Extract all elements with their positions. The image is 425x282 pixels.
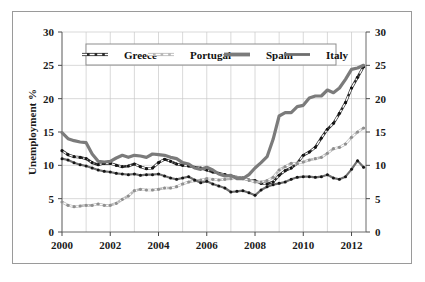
- data-point: [139, 188, 142, 191]
- data-point: [223, 187, 226, 190]
- data-point: [326, 152, 329, 155]
- y-tick-label-left: 15: [43, 126, 55, 138]
- data-point: [217, 178, 220, 181]
- data-point: [278, 168, 281, 171]
- data-point: [362, 126, 365, 129]
- data-point: [151, 188, 154, 191]
- data-point: [265, 182, 268, 185]
- data-point: [60, 200, 63, 203]
- data-point: [103, 204, 106, 207]
- data-point: [356, 159, 359, 162]
- y-tick-label-right: 20: [375, 93, 387, 105]
- data-point: [127, 194, 130, 197]
- data-point: [235, 190, 238, 193]
- x-tick-label: 2004: [148, 239, 171, 251]
- data-point: [181, 182, 184, 185]
- data-point: [79, 156, 82, 159]
- data-point: [157, 161, 160, 164]
- data-point: [308, 150, 311, 153]
- data-point: [133, 162, 136, 165]
- data-point: [79, 163, 82, 166]
- data-point: [127, 173, 130, 176]
- y-tick-label-left: 30: [43, 26, 55, 38]
- data-point: [344, 175, 347, 178]
- data-point: [266, 185, 269, 188]
- y-tick-label-left: 5: [49, 193, 55, 205]
- data-point: [320, 156, 323, 159]
- data-point: [338, 178, 341, 181]
- y-tick-label-right: 5: [375, 193, 381, 205]
- data-point: [284, 169, 287, 172]
- data-point: [61, 157, 64, 160]
- data-point: [302, 154, 305, 157]
- data-point: [181, 177, 184, 180]
- data-point: [211, 178, 214, 181]
- data-point: [91, 167, 94, 170]
- data-point: [332, 122, 335, 125]
- data-point: [229, 191, 232, 194]
- x-tick-label: 2010: [292, 239, 315, 251]
- data-point: [121, 198, 124, 201]
- data-point: [85, 165, 88, 168]
- data-point: [97, 163, 100, 166]
- data-point: [338, 112, 341, 115]
- data-point: [163, 186, 166, 189]
- data-point: [308, 158, 311, 161]
- data-point: [272, 176, 275, 179]
- data-point: [356, 76, 359, 79]
- data-point: [60, 149, 63, 152]
- data-point: [115, 172, 118, 175]
- data-point: [66, 153, 69, 156]
- data-point: [308, 175, 311, 178]
- data-point: [133, 189, 136, 192]
- data-point: [151, 166, 154, 169]
- x-tick-label: 2000: [51, 239, 74, 251]
- data-point: [296, 162, 299, 165]
- y-tick-label-right: 30: [375, 26, 387, 38]
- y-axis-title: Unemployment %: [26, 89, 38, 175]
- data-point: [290, 178, 293, 181]
- data-point: [193, 179, 196, 182]
- data-point: [332, 177, 335, 180]
- y-tick-label-left: 20: [43, 93, 55, 105]
- data-point: [127, 164, 130, 167]
- y-tick-label-right: 0: [375, 226, 381, 238]
- legend: GreecePortugalSpainItaly: [82, 44, 349, 65]
- data-point: [362, 166, 365, 169]
- data-point: [272, 183, 275, 186]
- data-point: [103, 170, 106, 173]
- data-point: [72, 155, 75, 158]
- data-point: [314, 157, 317, 160]
- x-tick-label: 2012: [341, 239, 364, 251]
- data-point: [139, 165, 142, 168]
- data-point: [247, 191, 250, 194]
- data-point: [72, 205, 75, 208]
- y-tick-label-left: 25: [43, 59, 55, 71]
- data-point: [259, 180, 262, 183]
- data-point: [247, 178, 250, 181]
- data-point: [326, 173, 329, 176]
- data-point: [356, 130, 359, 133]
- data-point: [139, 174, 142, 177]
- data-point: [314, 146, 317, 149]
- data-point: [73, 161, 76, 164]
- data-point: [350, 86, 353, 89]
- data-point: [284, 181, 287, 184]
- data-point: [109, 171, 112, 174]
- data-point: [199, 181, 202, 184]
- data-point: [344, 142, 347, 145]
- data-point: [278, 182, 281, 185]
- data-point: [211, 183, 214, 186]
- data-point: [115, 164, 118, 167]
- x-tick-label: 2008: [244, 239, 267, 251]
- data-point: [97, 169, 100, 172]
- data-point: [175, 185, 178, 188]
- data-point: [253, 180, 256, 183]
- data-point: [67, 159, 70, 162]
- data-point: [338, 146, 341, 149]
- data-point: [133, 173, 136, 176]
- data-point: [320, 175, 323, 178]
- data-point: [302, 175, 305, 178]
- data-point: [175, 162, 178, 165]
- data-point: [296, 176, 299, 179]
